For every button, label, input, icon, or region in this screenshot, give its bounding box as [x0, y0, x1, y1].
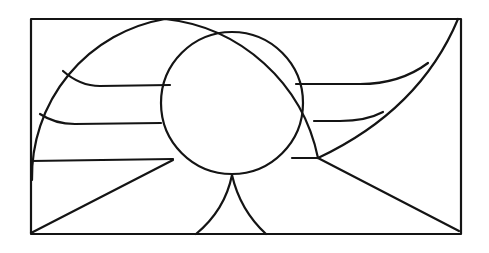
figure-svg — [0, 0, 489, 253]
left-base-line — [31, 159, 173, 161]
large-arc — [32, 19, 318, 180]
right-diagonal — [318, 158, 459, 231]
inner-circle — [161, 32, 303, 174]
right-cusp-arc — [232, 175, 266, 234]
left-cusp-arc — [196, 175, 232, 234]
right-upper-curve — [296, 63, 428, 84]
right-corner-curve — [318, 19, 458, 158]
left-upper-curve — [63, 71, 170, 86]
left-diagonal — [31, 160, 173, 233]
line-drawing-figure — [0, 0, 489, 253]
left-lower-curve — [40, 114, 161, 124]
outer-rectangle — [31, 19, 461, 234]
right-lower-curve — [314, 112, 383, 121]
